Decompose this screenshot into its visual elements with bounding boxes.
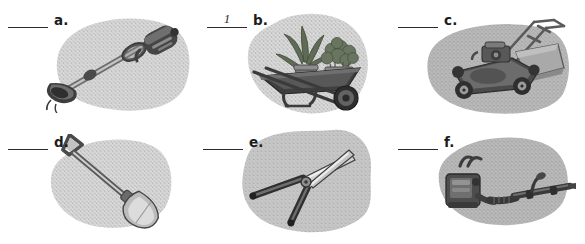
answer-blank-line-a [8, 27, 48, 28]
answer-blank-line-f [398, 149, 438, 150]
answer-blank-a[interactable] [8, 8, 48, 28]
answer-blank-e[interactable] [203, 130, 243, 150]
answer-blank-b[interactable]: 1 [207, 8, 247, 28]
answer-value-b: 1 [207, 12, 247, 25]
answer-label-group-c[interactable]: c. [398, 8, 458, 28]
answer-blank-c[interactable] [398, 8, 438, 28]
item-letter-b: b. [253, 14, 268, 29]
answer-blank-line-b [207, 27, 247, 28]
worksheet-item-d[interactable]: d. [0, 122, 195, 244]
answer-blank-f[interactable] [398, 130, 438, 150]
answer-label-group-b[interactable]: 1 b. [207, 8, 268, 28]
answer-blank-line-e [203, 149, 243, 150]
illustration-leaf-blower [438, 144, 576, 226]
worksheet-item-b[interactable]: 1 b. [195, 0, 390, 122]
illustration-hedge-shears [243, 138, 378, 238]
item-letter-a: a. [54, 14, 69, 29]
illustration-shovel [55, 134, 180, 230]
item-letter-f: f. [444, 136, 455, 151]
item-letter-e: e. [249, 136, 264, 151]
worksheet-item-c[interactable]: c. [390, 0, 585, 122]
answer-label-group-a[interactable]: a. [8, 8, 69, 28]
worksheet-item-a[interactable]: a. [0, 0, 195, 122]
answer-blank-line-d [8, 149, 48, 150]
illustration-string-trimmer [42, 18, 182, 113]
worksheet-item-e[interactable]: e. [195, 122, 390, 244]
item-letter-c: c. [444, 14, 458, 29]
worksheet-grid: a. [0, 0, 585, 244]
worksheet: a. [0, 0, 585, 244]
item-letter-d: d. [54, 136, 69, 151]
answer-label-group-f[interactable]: f. [398, 130, 455, 150]
answer-blank-d[interactable] [8, 130, 48, 150]
answer-label-group-d[interactable]: d. [8, 130, 69, 150]
answer-blank-line-c [398, 27, 438, 28]
worksheet-item-f[interactable]: f. [390, 122, 585, 244]
answer-label-group-e[interactable]: e. [203, 130, 264, 150]
